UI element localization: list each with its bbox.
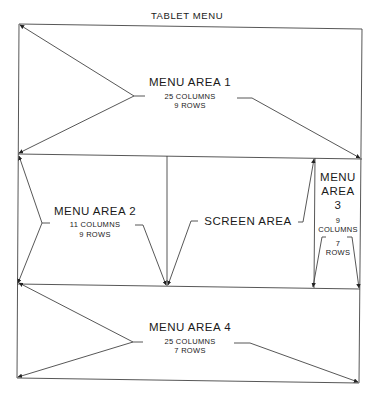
menu-area-2-label: MENU AREA 2 <box>40 206 150 218</box>
menu-area-4-label: MENU AREA 4 <box>130 322 250 334</box>
menu-area-1-rows: 9 ROWS <box>130 102 250 110</box>
menu-area-3-rows: ROWS <box>316 249 360 257</box>
frame-left <box>17 24 19 378</box>
menu-area-2-rows: 9 ROWS <box>40 231 150 239</box>
frame-top <box>19 24 362 29</box>
menu-area-3-label-line1: MENU <box>316 172 360 184</box>
menu-area-1-columns: 25 COLUMNS <box>130 93 250 101</box>
divider-top-band <box>18 154 362 159</box>
menu-area-4-rows: 7 ROWS <box>130 347 250 355</box>
menu-area-2-columns: 11 COLUMNS <box>40 221 150 229</box>
frame-bottom <box>17 378 359 383</box>
menu-area-3-columns-num: 9 <box>316 217 360 225</box>
menu-area-3-rows-num: 7 <box>316 240 360 248</box>
diagram-title: TABLET MENU <box>0 11 374 21</box>
menu-area-3-columns: COLUMNS <box>316 226 360 234</box>
menu-area-3-label-line2: AREA <box>316 186 360 198</box>
divider-screen-area3 <box>314 158 315 288</box>
menu-area-1-label: MENU AREA 1 <box>130 77 250 89</box>
menu-area-3-label-line3: 3 <box>316 200 360 212</box>
divider-bottom-band <box>17 284 360 289</box>
screen-area-label: SCREEN AREA <box>196 216 300 228</box>
menu-area-4-columns: 25 COLUMNS <box>130 338 250 346</box>
